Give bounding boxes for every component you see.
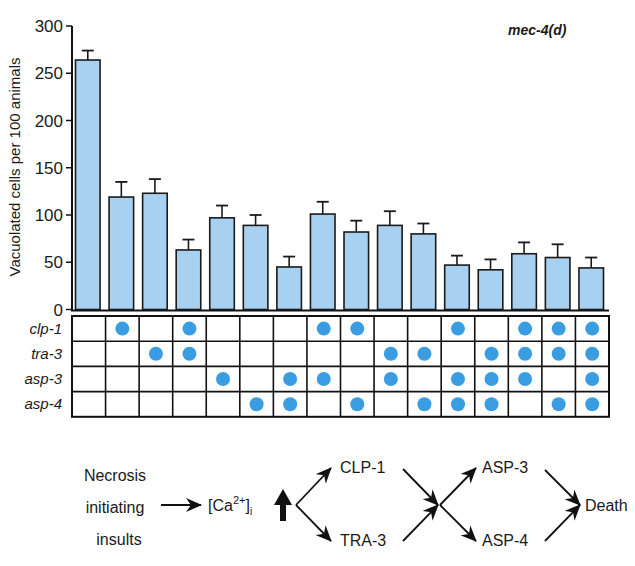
bar — [143, 193, 168, 309]
y-tick-label: 300 — [35, 17, 63, 36]
bar — [579, 268, 604, 310]
bar — [109, 197, 134, 309]
arrow-tra3-to-asp — [403, 505, 438, 541]
calcium-sub: i — [250, 506, 252, 517]
mutation-dot — [451, 322, 465, 336]
mutation-dot — [350, 397, 364, 411]
mutation-dot — [485, 397, 499, 411]
mutation-dot — [149, 347, 163, 361]
genotype-table: clp-1tra-3asp-3asp-4 — [24, 316, 609, 417]
mutation-dot — [585, 347, 599, 361]
mutation-dot — [552, 347, 566, 361]
insult-line-3: insults — [96, 531, 141, 548]
mutation-dot — [417, 397, 431, 411]
bar — [512, 254, 537, 310]
increase-arrow-icon — [274, 489, 292, 521]
insult-line-1: Necrosis — [84, 467, 146, 484]
genotype-row-label: asp-3 — [24, 370, 62, 387]
genotype-row-label: tra-3 — [31, 345, 63, 362]
mutation-dot — [250, 397, 264, 411]
bar — [445, 265, 470, 309]
bar — [243, 225, 268, 309]
mutation-dot — [317, 372, 331, 386]
bar — [344, 232, 369, 309]
clp1-node: CLP-1 — [340, 459, 385, 476]
arrow-to-asp3 — [440, 468, 476, 505]
bar — [176, 250, 201, 310]
tra3-node: TRA-3 — [340, 532, 386, 549]
figure: mec-4(d) Vacuolated cells per 100 animal… — [0, 0, 635, 566]
calcium-sup: 2+ — [233, 494, 246, 506]
y-tick-label: 250 — [35, 64, 63, 83]
mutation-dot — [283, 397, 297, 411]
mutation-dot — [283, 372, 297, 386]
mutation-dot — [384, 347, 398, 361]
y-tick-label: 200 — [35, 112, 63, 131]
pathway-diagram: Necrosis initiating insults [Ca2+]i CLP-… — [84, 459, 628, 549]
y-tick-label: 150 — [35, 159, 63, 178]
y-tick-label: 50 — [44, 253, 63, 272]
genotype-row-label: asp-4 — [24, 395, 62, 412]
arrow-asp3-to-death — [545, 470, 580, 505]
mutation-dot — [417, 347, 431, 361]
arrow-to-asp4 — [440, 505, 476, 541]
bar — [478, 270, 503, 310]
arrow-clp1-to-asp — [403, 469, 438, 505]
asp4-node: ASP-4 — [482, 532, 528, 549]
arrow-to-tra3 — [296, 505, 331, 541]
mutation-dot — [518, 347, 532, 361]
mutation-dot — [552, 397, 566, 411]
arrow-to-clp1 — [296, 468, 331, 505]
bars — [76, 51, 604, 310]
mutation-dot — [182, 347, 196, 361]
mutation-dot — [585, 397, 599, 411]
bar — [411, 234, 436, 310]
y-tick-label: 100 — [35, 206, 63, 225]
y-axis-title: Vacuolated cells per 100 animals — [6, 57, 23, 276]
mutation-dot — [585, 372, 599, 386]
mutation-dot — [317, 322, 331, 336]
insult-line-2: initiating — [86, 499, 145, 516]
genotype-row-label: clp-1 — [29, 320, 62, 337]
mutation-dot — [350, 322, 364, 336]
mutation-dot — [585, 322, 599, 336]
mutation-dot — [182, 322, 196, 336]
bar — [277, 267, 302, 310]
mutation-dot — [485, 347, 499, 361]
bar — [378, 225, 403, 309]
arrow-asp4-to-death — [545, 505, 580, 541]
mutation-dot — [451, 397, 465, 411]
bar — [310, 214, 335, 309]
mutation-dot — [115, 322, 129, 336]
strain-label: mec-4(d) — [508, 22, 567, 38]
mutation-dot — [384, 372, 398, 386]
mutation-dot — [485, 372, 499, 386]
death-node: Death — [585, 497, 628, 514]
mutation-dot — [552, 322, 566, 336]
mutation-dot — [518, 372, 532, 386]
calcium-label: [Ca2+]i — [208, 494, 252, 517]
mutation-dot — [451, 372, 465, 386]
mutation-dot — [518, 322, 532, 336]
asp3-node: ASP-3 — [482, 459, 528, 476]
calcium-open: [Ca — [208, 497, 233, 514]
bar — [210, 218, 235, 310]
mutation-dot — [216, 372, 230, 386]
y-tick-label: 0 — [54, 301, 63, 320]
bar — [76, 60, 101, 309]
bar — [545, 258, 570, 310]
